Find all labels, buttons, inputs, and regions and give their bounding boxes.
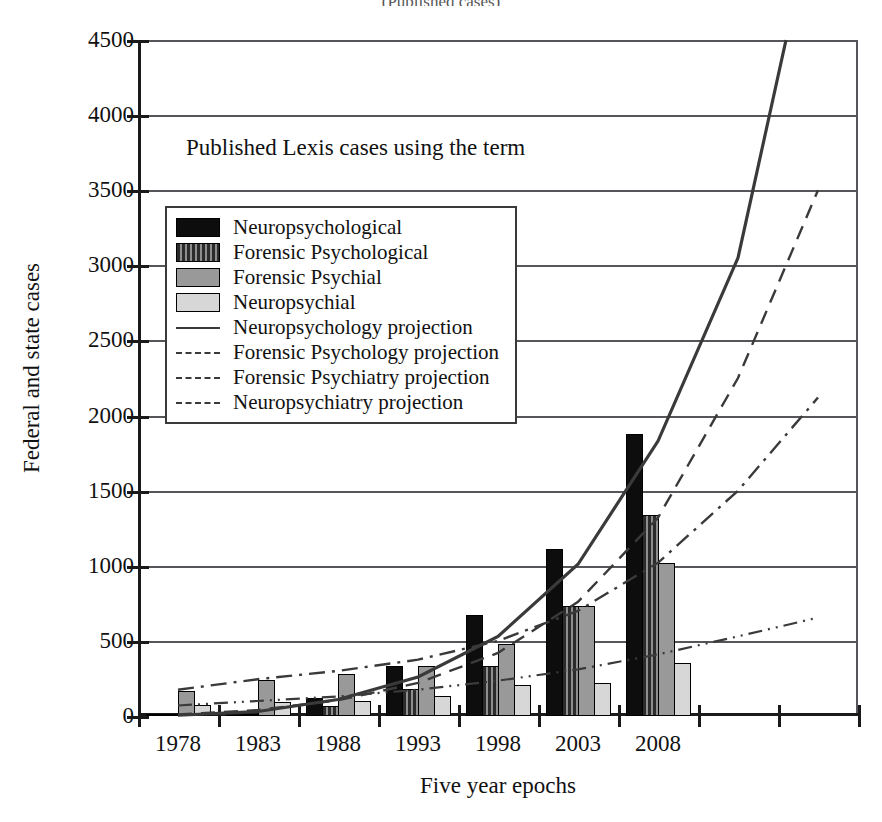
- y-tick-label: 2000: [40, 404, 134, 427]
- y-tick-label: 1000: [40, 554, 134, 577]
- x-tick-mark: [858, 705, 861, 727]
- legend-line-icon: [176, 368, 220, 387]
- y-tick-label: 2500: [40, 328, 134, 351]
- legend-swatch-icon: [176, 243, 220, 262]
- y-tick-label: 3500: [40, 178, 134, 201]
- chart-figure: (Published cases) Federal and state case…: [0, 0, 882, 822]
- legend-label: Forensic Psychological: [233, 242, 428, 263]
- y-tick-label: 500: [40, 629, 134, 652]
- chart-title: (Published cases): [0, 0, 882, 6]
- legend-swatch-icon: [176, 218, 220, 237]
- projection-line: [178, 398, 818, 690]
- legend-item: Forensic Psychial: [176, 265, 505, 290]
- chart-annotation: Published Lexis cases using the term: [186, 135, 525, 161]
- legend-label: Neuropsychial: [233, 292, 355, 313]
- legend-item: Neuropsychology projection: [176, 315, 505, 340]
- legend-item: Forensic Psychological: [176, 240, 505, 265]
- y-tick-label: 1500: [40, 479, 134, 502]
- legend-line-icon: [176, 343, 220, 362]
- y-tick-label: 4000: [40, 103, 134, 126]
- legend-swatch-icon: [176, 268, 220, 287]
- legend-line-icon: [176, 393, 220, 412]
- legend-label: Forensic Psychology projection: [233, 342, 499, 363]
- legend-label: Forensic Psychiatry projection: [233, 367, 490, 388]
- y-tick-label: 3000: [40, 253, 134, 276]
- x-tick-label: 2008: [608, 732, 708, 755]
- legend-item: Forensic Psychology projection: [176, 340, 505, 365]
- legend-line-icon: [176, 318, 220, 337]
- legend-swatch-icon: [176, 293, 220, 312]
- legend-item: Neuropsychial: [176, 290, 505, 315]
- legend-label: Neuropsychiatry projection: [233, 392, 463, 413]
- legend-item: Forensic Psychiatry projection: [176, 365, 505, 390]
- x-axis-title: Five year epochs: [138, 773, 858, 799]
- chart-legend: NeuropsychologicalForensic Psychological…: [165, 206, 517, 424]
- projection-line: [178, 618, 818, 706]
- y-tick-label: 4500: [40, 28, 134, 51]
- legend-label: Neuropsychological: [233, 217, 402, 238]
- y-tick-label: 0: [40, 704, 134, 727]
- legend-item: Neuropsychiatry projection: [176, 390, 505, 415]
- legend-label: Neuropsychology projection: [233, 317, 473, 338]
- legend-label: Forensic Psychial: [233, 267, 382, 288]
- legend-item: Neuropsychological: [176, 215, 505, 240]
